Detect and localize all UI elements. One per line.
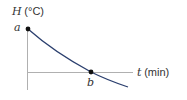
curve-h-of-t bbox=[28, 29, 128, 87]
point-b-label: b bbox=[87, 77, 94, 88]
chart: H (°C) a b t (min) bbox=[0, 0, 187, 100]
point-b bbox=[89, 70, 94, 75]
x-axis-variable: t bbox=[137, 66, 141, 79]
x-axis-unit: (min) bbox=[144, 66, 169, 78]
point-a bbox=[26, 27, 31, 32]
x-axis-label: t (min) bbox=[137, 67, 169, 78]
y-axis-variable: H bbox=[12, 5, 22, 18]
y-axis-label: H (°C) bbox=[12, 6, 44, 17]
point-a-label: a bbox=[14, 22, 21, 33]
y-axis-unit: (°C) bbox=[24, 5, 44, 17]
